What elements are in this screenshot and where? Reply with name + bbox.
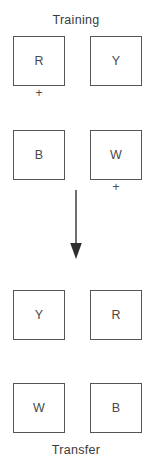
transfer-box-b: B bbox=[90, 383, 142, 433]
transfer-box-r-letter: R bbox=[111, 309, 120, 322]
transfer-box-w: W bbox=[13, 383, 65, 433]
training-box-y-letter: Y bbox=[112, 55, 121, 68]
transfer-caption: Transfer bbox=[0, 443, 152, 457]
training-box-y: Y bbox=[90, 36, 142, 86]
training-box-w: W bbox=[90, 130, 142, 180]
training-box-w-reinforcement-plus: + bbox=[90, 181, 142, 193]
transfer-box-r: R bbox=[90, 290, 142, 340]
training-transfer-diagram: Training R Y + B W + Y R W B Transfer bbox=[0, 0, 152, 464]
transfer-box-y-letter: Y bbox=[35, 309, 44, 322]
training-box-b-letter: B bbox=[35, 149, 44, 162]
training-box-r: R bbox=[13, 36, 65, 86]
training-caption: Training bbox=[0, 13, 152, 27]
training-box-r-reinforcement-plus: + bbox=[13, 87, 65, 99]
training-box-w-letter: W bbox=[110, 149, 122, 162]
training-box-b: B bbox=[13, 130, 65, 180]
transfer-box-b-letter: B bbox=[112, 402, 121, 415]
training-box-r-letter: R bbox=[34, 55, 43, 68]
transfer-box-y: Y bbox=[13, 290, 65, 340]
down-arrow-icon bbox=[64, 190, 88, 260]
transfer-box-w-letter: W bbox=[33, 402, 45, 415]
